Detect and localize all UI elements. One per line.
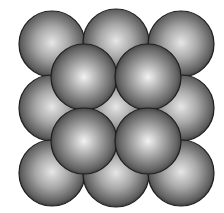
sphere-packing-diagram (0, 0, 224, 213)
sphere (51, 44, 117, 110)
sphere (51, 108, 117, 174)
sphere (115, 44, 181, 110)
sphere-packing-svg (0, 0, 224, 213)
bottom-layer (19, 9, 214, 207)
sphere (115, 108, 181, 174)
